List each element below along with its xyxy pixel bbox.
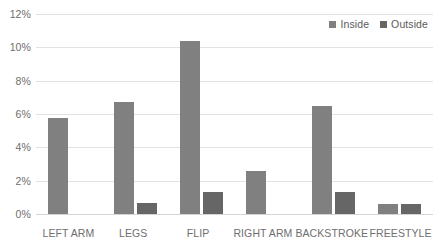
- bar-group: [235, 14, 301, 214]
- x-axis-tick-label: FLIP: [166, 216, 231, 248]
- bar-group: [168, 14, 234, 214]
- y-axis-tick-label: 0%: [16, 208, 31, 220]
- bar-inside[interactable]: [246, 171, 266, 214]
- x-axis-tick-label: BACKSTROKE: [295, 216, 368, 248]
- y-axis-tick-label: 10%: [10, 41, 31, 53]
- legend-swatch-icon: [329, 21, 336, 28]
- bar-outside[interactable]: [335, 192, 355, 214]
- legend-label: Outside: [391, 19, 428, 30]
- y-axis-tick-label: 4%: [16, 141, 31, 153]
- y-axis: 0%2%4%6%8%10%12%: [0, 0, 36, 248]
- plot-area: [36, 14, 433, 214]
- bar-outside[interactable]: [203, 192, 223, 214]
- bar-outside[interactable]: [137, 203, 157, 214]
- y-axis-tick-label: 6%: [16, 108, 31, 120]
- bar-inside[interactable]: [180, 41, 200, 214]
- bar-inside[interactable]: [312, 106, 332, 214]
- legend-label: Inside: [340, 19, 369, 30]
- x-axis-tick-label: RIGHT ARM: [231, 216, 296, 248]
- bar-inside[interactable]: [48, 118, 68, 214]
- y-axis-tick-label: 12%: [10, 8, 31, 20]
- bar-group: [102, 14, 168, 214]
- x-axis-tick-label: LEGS: [101, 216, 166, 248]
- bar-groups: [36, 14, 433, 214]
- x-axis: LEFT ARMLEGSFLIPRIGHT ARMBACKSTROKEFREES…: [36, 216, 433, 248]
- legend-entry-outside[interactable]: Outside: [380, 19, 428, 30]
- bar-group: [36, 14, 102, 214]
- bar-inside[interactable]: [378, 204, 398, 214]
- bar-group: [367, 14, 433, 214]
- gridline: [36, 214, 433, 215]
- chart-legend: InsideOutside: [329, 19, 428, 30]
- legend-entry-inside[interactable]: Inside: [329, 19, 369, 30]
- bar-chart: InsideOutside 0%2%4%6%8%10%12% LEFT ARML…: [0, 0, 437, 248]
- y-axis-tick-label: 8%: [16, 75, 31, 87]
- x-axis-tick-label: FREESTYLE: [368, 216, 433, 248]
- x-axis-tick-label: LEFT ARM: [36, 216, 101, 248]
- bar-inside[interactable]: [114, 102, 134, 214]
- bar-group: [301, 14, 367, 214]
- bar-outside[interactable]: [401, 204, 421, 214]
- y-axis-tick-label: 2%: [16, 175, 31, 187]
- legend-swatch-icon: [380, 21, 387, 28]
